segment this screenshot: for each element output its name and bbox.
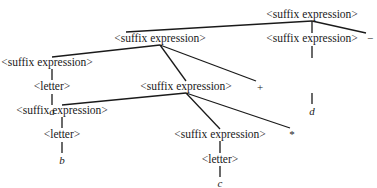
terminal-d: d (309, 106, 315, 117)
letter-a-node: <letter> (34, 81, 71, 93)
plus-operator: + (257, 82, 263, 93)
tree-edges (0, 0, 377, 187)
letter-c-node: <letter> (202, 154, 239, 166)
suffix-expression-c-node: <suffix expression> (174, 129, 266, 141)
left-suffix-expression-node: <suffix expression> (114, 33, 206, 45)
suffix-expression-b-node: <suffix expression> (16, 105, 108, 117)
right-suffix-expression-node: <suffix expression> (266, 33, 358, 45)
root-suffix-expression-node: <suffix expression> (266, 9, 358, 21)
terminal-b: b (59, 155, 65, 166)
terminal-c: c (218, 178, 223, 188)
letter-b-node: <letter> (44, 129, 81, 141)
suffix-expression-a-node: <suffix expression> (1, 57, 93, 69)
multiply-operator: * (289, 129, 295, 140)
middle-suffix-expression-node: <suffix expression> (140, 81, 232, 93)
minus-operator: − (367, 33, 373, 44)
